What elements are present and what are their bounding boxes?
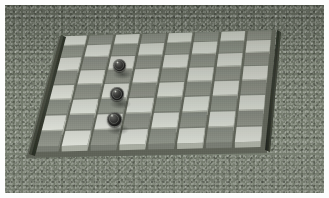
checker-pieces-layer [5,5,324,193]
checker-piece-2-highlight [114,90,118,93]
checker-piece-1[interactable] [113,59,126,72]
checker-piece-2[interactable] [110,87,124,101]
photo-frame [5,5,324,193]
checker-piece-3[interactable] [107,112,122,127]
checker-piece-1-highlight [116,61,119,64]
scene-root [0,0,329,198]
